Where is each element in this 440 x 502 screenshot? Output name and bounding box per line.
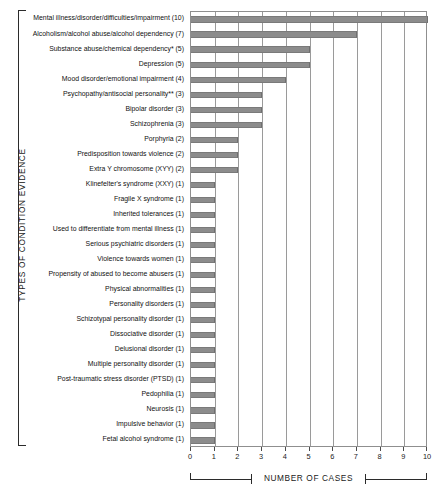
category-label: Inherited tolerances (1) xyxy=(113,208,184,220)
bar xyxy=(191,212,215,218)
x-tick xyxy=(190,447,191,451)
x-axis-tick-labels: 012345678910 xyxy=(150,452,440,464)
x-tick xyxy=(380,447,381,451)
gridline xyxy=(286,12,287,446)
bar xyxy=(191,377,215,383)
bar xyxy=(191,242,215,248)
category-label: Predisposition towards violence (2) xyxy=(77,148,184,160)
bar xyxy=(191,257,215,263)
bar-chart: TYPES OF CONDITION EVIDENCE Mental illne… xyxy=(0,0,440,502)
x-tick-label: 10 xyxy=(412,452,440,461)
bar xyxy=(191,407,215,413)
bar xyxy=(191,62,310,68)
x-tick xyxy=(214,447,215,451)
x-tick xyxy=(332,447,333,451)
x-tick xyxy=(237,447,238,451)
category-label: Klinefelter's syndrome (XXY) (1) xyxy=(86,178,184,190)
bar xyxy=(191,152,238,158)
x-tick xyxy=(309,447,310,451)
bar xyxy=(191,272,215,278)
category-label-column: Mental illness/disorder/difficulties/imp… xyxy=(26,11,187,447)
plot-area xyxy=(190,11,427,447)
bar xyxy=(191,16,428,22)
gridline xyxy=(310,12,311,446)
category-label: Mental illness/disorder/difficulties/imp… xyxy=(33,12,184,24)
bar xyxy=(191,77,286,83)
x-tick xyxy=(356,447,357,451)
bar xyxy=(191,347,215,353)
bar xyxy=(191,167,238,173)
bar xyxy=(191,302,215,308)
gridline xyxy=(357,12,358,446)
category-label: Pedophilia (1) xyxy=(141,388,184,400)
category-label: Dissociative disorder (1) xyxy=(110,328,184,340)
category-label: Substance abuse/chemical dependency* (5) xyxy=(49,43,184,55)
category-label: Propensity of abused to become abusers (… xyxy=(48,268,184,280)
category-label: Violence towards women (1) xyxy=(97,253,184,265)
category-label: Personality disorders (1) xyxy=(109,298,184,310)
category-label: Porphyria (2) xyxy=(144,133,184,145)
bar xyxy=(191,287,215,293)
category-label: Serious psychiatric disorders (1) xyxy=(86,238,184,250)
category-label: Physical abnormalities (1) xyxy=(105,283,184,295)
bar xyxy=(191,137,238,143)
x-axis-title: NUMBER OF CASES xyxy=(190,473,427,483)
x-axis-label-group: NUMBER OF CASES xyxy=(190,471,427,491)
category-label: Psychopathy/antisocial personality** (3) xyxy=(63,88,184,100)
category-label: Alcoholism/alcohol abuse/alcohol depende… xyxy=(33,28,184,40)
category-label: Mood disorder/emotional impairment (4) xyxy=(62,73,184,85)
category-label: Multiple personality disorder (1) xyxy=(88,358,184,370)
x-tick xyxy=(261,447,262,451)
bar xyxy=(191,362,215,368)
category-label: Delusional disorder (1) xyxy=(115,343,184,355)
bar xyxy=(191,422,215,428)
bar xyxy=(191,227,215,233)
bar xyxy=(191,46,310,52)
bar xyxy=(191,107,262,113)
bar xyxy=(191,122,262,128)
category-label: Schizophrenia (3) xyxy=(130,118,184,130)
category-label: Schizotypal personality disorder (1) xyxy=(76,313,184,325)
bar xyxy=(191,197,215,203)
category-label: Neurosis (1) xyxy=(146,403,184,415)
bar xyxy=(191,31,357,37)
x-tick xyxy=(403,447,404,451)
category-label: Extra Y chromosome (XYY) (2) xyxy=(89,163,184,175)
category-label: Fetal alcohol syndrome (1) xyxy=(102,433,184,445)
bar xyxy=(191,437,215,443)
category-label: Depression (5) xyxy=(139,58,184,70)
gridline xyxy=(333,12,334,446)
bar xyxy=(191,317,215,323)
bar xyxy=(191,182,215,188)
category-label: Impulsive behavior (1) xyxy=(116,418,184,430)
y-axis-label-group: TYPES OF CONDITION EVIDENCE xyxy=(0,10,26,446)
gridline xyxy=(404,12,405,446)
gridline xyxy=(381,12,382,446)
category-label: Bipolar disorder (3) xyxy=(125,103,184,115)
x-tick xyxy=(285,447,286,451)
x-tick xyxy=(426,447,427,451)
bar xyxy=(191,392,215,398)
bar xyxy=(191,92,262,98)
category-label: Used to differentiate from mental illnes… xyxy=(53,223,184,235)
category-label: Post-traumatic stress disorder (PTSD) (1… xyxy=(57,373,184,385)
bar xyxy=(191,332,215,338)
category-label: Fragile X syndrome (1) xyxy=(114,193,184,205)
